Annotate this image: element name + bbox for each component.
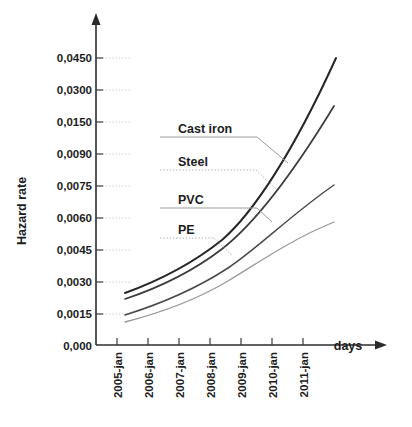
y-tick-label: 0,0150 xyxy=(57,116,92,128)
series-label-pe: PE xyxy=(178,223,195,237)
x-tick-labels: 2005-jan 2006-jan 2007-jan 2008-jan 2009… xyxy=(112,352,310,398)
x-axis-arrowhead xyxy=(375,341,387,350)
y-tick-label: 0,0015 xyxy=(57,308,93,320)
y-tick-label: 0,0300 xyxy=(57,84,92,96)
y-tick-labels: 0,0450 0,0300 0,0150 0,0090 0,0075 0,006… xyxy=(57,52,93,352)
series-curves xyxy=(125,58,336,322)
y-tick-label: 0,0075 xyxy=(57,180,93,192)
leader-pvc xyxy=(160,208,272,222)
y-tick-label: 0,0045 xyxy=(57,244,93,256)
x-tick-label: 2011-jan xyxy=(298,352,310,397)
y-tick-label: 0,0450 xyxy=(57,52,92,64)
series-label-cast-iron: Cast iron xyxy=(178,122,232,136)
x-tick-label: 2006-jan xyxy=(143,352,155,398)
series-curve-pvc xyxy=(125,185,334,315)
y-tick-label: 0,000 xyxy=(63,340,92,352)
leader-steel xyxy=(160,170,277,190)
callout-labels: Cast iron Steel PVC PE xyxy=(178,122,232,237)
y-tick-label: 0,0090 xyxy=(57,148,92,160)
series-label-pvc: PVC xyxy=(178,193,204,207)
chart-canvas: 0,0450 0,0300 0,0150 0,0090 0,0075 0,006… xyxy=(0,0,412,427)
hazard-rate-chart: 0,0450 0,0300 0,0150 0,0090 0,0075 0,006… xyxy=(0,0,412,427)
y-tick-label: 0,0060 xyxy=(57,212,92,224)
x-tick-label: 2007-jan xyxy=(174,352,186,398)
y-axis-arrowhead xyxy=(92,13,101,25)
x-tick-marks xyxy=(117,338,303,345)
y-tick-marks xyxy=(96,58,103,314)
series-curve-pe xyxy=(125,222,334,322)
x-axis-title: days xyxy=(334,339,363,353)
series-label-steel: Steel xyxy=(178,155,208,169)
axis-lines xyxy=(92,13,388,350)
x-tick-label: 2010-jan xyxy=(267,352,279,398)
x-tick-label: 2009-jan xyxy=(236,352,248,398)
y-axis-title: Hazard rate xyxy=(15,177,29,245)
x-tick-label: 2005-jan xyxy=(112,352,124,398)
y-tick-label: 0,0030 xyxy=(57,276,92,288)
series-curve-cast-iron xyxy=(125,58,336,293)
x-tick-label: 2008-jan xyxy=(205,352,217,398)
y-gridline-stubs xyxy=(103,58,132,314)
